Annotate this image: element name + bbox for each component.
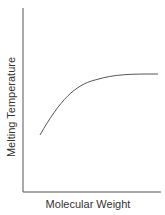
data-curve	[40, 74, 158, 135]
x-axis-label: Molecular Weight	[46, 198, 131, 210]
line-chart: Melting Temperature Molecular Weight	[0, 0, 165, 215]
chart-canvas	[0, 0, 165, 215]
y-axis-label: Melting Temperature	[5, 57, 17, 157]
